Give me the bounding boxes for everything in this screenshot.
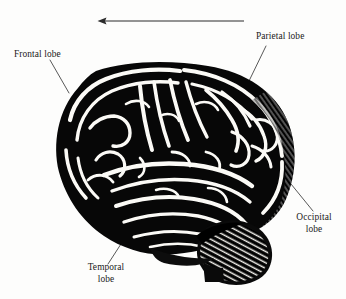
brain-lateral-engraving bbox=[56, 62, 300, 285]
leader-line-parietal bbox=[249, 46, 266, 81]
label-frontal-lobe: Frontal lobe bbox=[14, 49, 61, 61]
brain-lobes-figure: Frontal lobe Parietal lobe Occipital lob… bbox=[0, 0, 346, 299]
anterior-direction-arrow bbox=[98, 18, 245, 25]
leader-line-frontal bbox=[50, 60, 69, 93]
leader-line-occipital bbox=[291, 184, 313, 211]
label-occipital-lobe: Occipital lobe bbox=[288, 212, 340, 235]
label-parietal-lobe: Parietal lobe bbox=[256, 31, 304, 43]
illustration-layer bbox=[0, 0, 346, 299]
label-temporal-lobe: Temporal lobe bbox=[74, 262, 138, 285]
